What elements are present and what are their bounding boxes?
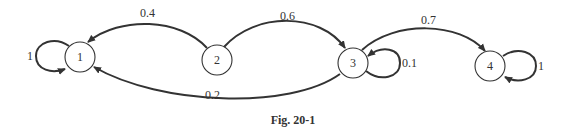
edge-label-3-4: 0.7 bbox=[421, 13, 436, 27]
figure-caption: Fig. 20-1 bbox=[271, 113, 316, 127]
edge-2-to-3: 0.6 bbox=[224, 9, 345, 48]
edge-2-to-1: 0.4 bbox=[88, 6, 207, 48]
node-1: 1 bbox=[65, 42, 95, 72]
node-label-4: 4 bbox=[487, 59, 493, 73]
edge-label-2-3: 0.6 bbox=[280, 9, 295, 23]
self-loop-1: 1 bbox=[27, 41, 69, 71]
edge-label-3-1: 0.2 bbox=[205, 88, 220, 102]
self-loop-3: 0.1 bbox=[366, 49, 417, 77]
edge-3-to-4: 0.7 bbox=[362, 13, 485, 51]
node-label-3: 3 bbox=[350, 56, 356, 70]
self-loop-4: 1 bbox=[503, 51, 544, 80]
node-label-1: 1 bbox=[77, 50, 83, 64]
node-3: 3 bbox=[338, 48, 368, 78]
edge-label-1-1: 1 bbox=[27, 49, 33, 63]
edge-label-3-3: 0.1 bbox=[402, 56, 417, 70]
node-label-2: 2 bbox=[214, 53, 220, 67]
edge-label-2-1: 0.4 bbox=[140, 6, 155, 20]
node-2: 2 bbox=[202, 45, 232, 75]
node-4: 4 bbox=[475, 51, 505, 81]
edge-label-4-4: 1 bbox=[538, 59, 544, 73]
markov-chain-diagram: 0.4 0.6 0.7 0.2 1 0.1 1 1 2 3 bbox=[0, 0, 569, 129]
